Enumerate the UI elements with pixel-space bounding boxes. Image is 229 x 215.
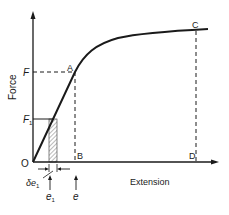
y-axis-label: Force: [7, 74, 18, 100]
point-a-label: A: [67, 63, 73, 73]
e-label: e: [73, 191, 79, 202]
force-extension-curve: [33, 29, 208, 162]
e-arrowhead-icon: [74, 175, 78, 180]
e1-sub: 1: [52, 197, 56, 203]
x-axis-arrow-icon: [211, 160, 219, 165]
delta-e1-leader: [43, 171, 53, 178]
force-extension-diagram: Force Extension O A B C D F F1 δe1 e1 e: [0, 0, 229, 215]
delta-e1-left-arrowhead-icon: [45, 167, 49, 170]
force-f1-label: F1: [23, 114, 33, 126]
point-b-label: B: [77, 151, 83, 161]
e1-label: e1: [46, 191, 56, 203]
y-axis-arrow-icon: [31, 11, 36, 19]
point-c-label: C: [192, 20, 199, 30]
delta-e1-main: δe: [26, 178, 36, 188]
delta-e1-label: δe1: [26, 178, 40, 189]
point-d-label: D: [189, 151, 196, 161]
origin-label: O: [21, 158, 29, 169]
e1-arrowhead-icon: [48, 175, 52, 180]
delta-e1-sub: 1: [36, 183, 40, 189]
delta-e1-right-arrowhead-icon: [57, 167, 61, 170]
x-axis-label: Extension: [130, 177, 170, 187]
force-f-label: F: [23, 67, 30, 78]
